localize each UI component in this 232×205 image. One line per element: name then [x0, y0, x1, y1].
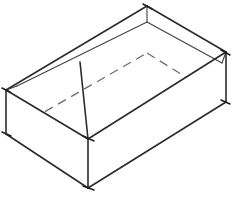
figure-canvas: [0, 0, 232, 205]
box-line-drawing: [0, 0, 232, 205]
